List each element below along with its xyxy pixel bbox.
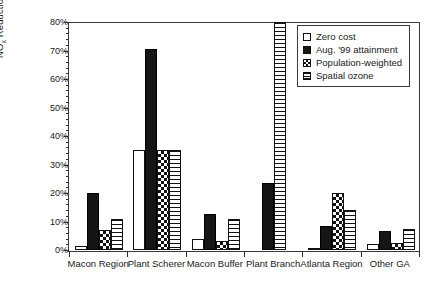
x-tick <box>302 252 303 257</box>
bar <box>228 219 240 250</box>
bar <box>99 230 111 250</box>
legend-item: Aug. '99 attainment <box>303 43 402 56</box>
bar <box>145 49 157 250</box>
y-axis-ticks: 0%10%20%30%40%50%60%70%80% <box>30 22 68 252</box>
bar <box>262 183 274 250</box>
y-axis-title-prefix: NO <box>0 44 5 58</box>
x-tick <box>244 252 245 257</box>
legend-item: Zero cost <box>303 30 402 43</box>
bar-group <box>187 24 245 250</box>
x-tick <box>127 252 128 257</box>
legend-item: Spatial ozone <box>303 69 402 82</box>
bar <box>274 22 286 250</box>
bar <box>87 193 99 250</box>
x-category-label: Other GA <box>370 258 410 269</box>
x-tick <box>361 252 362 257</box>
bar <box>204 214 216 250</box>
bar <box>320 226 332 250</box>
legend: Zero cost Aug. '99 attainment Population… <box>297 25 410 87</box>
x-category-label: Plant Branch <box>246 258 300 269</box>
x-tick <box>69 252 70 257</box>
x-category-label: Macon Region <box>68 258 129 269</box>
nox-reduction-bar-chart: NOx Reduction (%) in Optimal Strategy 0%… <box>0 0 435 283</box>
legend-swatch-population-weighted-icon <box>303 59 311 67</box>
legend-label: Spatial ozone <box>316 70 374 81</box>
x-category-label: Plant Scherer <box>128 258 186 269</box>
legend-swatch-aug99-icon <box>303 46 311 54</box>
bar <box>216 241 228 250</box>
bar <box>133 150 145 250</box>
bar <box>379 231 391 250</box>
legend-label: Population-weighted <box>316 57 402 68</box>
x-tick <box>419 252 420 257</box>
y-axis-title: NOx Reduction (%) in Optimal Strategy <box>0 0 7 58</box>
y-axis-title-suffix: Reduction (%) in Optimal Strategy <box>0 0 5 40</box>
y-axis-title-subscript: x <box>0 40 7 44</box>
x-category-label: Atlanta Region <box>300 258 362 269</box>
bar <box>75 246 87 250</box>
bar <box>332 193 344 250</box>
bar <box>308 248 320 250</box>
bar <box>344 210 356 250</box>
legend-swatch-spatial-ozone-icon <box>303 72 311 80</box>
legend-label: Aug. '99 attainment <box>316 44 398 55</box>
x-tick <box>186 252 187 257</box>
bar <box>192 239 204 250</box>
bar-group <box>128 24 186 250</box>
x-category-label: Macon Buffer <box>187 258 243 269</box>
bar <box>169 150 181 250</box>
bar <box>157 150 169 250</box>
legend-label: Zero cost <box>316 31 356 42</box>
bar <box>111 219 123 250</box>
bar <box>403 229 415 250</box>
legend-item: Population-weighted <box>303 56 402 69</box>
bar-group <box>245 24 303 250</box>
bar <box>367 244 379 250</box>
bar <box>391 243 403 250</box>
legend-swatch-zero-cost-icon <box>303 33 311 41</box>
bar-group <box>70 24 128 250</box>
